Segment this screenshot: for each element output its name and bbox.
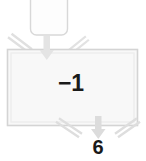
diagram-canvas: −1 6	[0, 0, 146, 161]
main-node-value-label: −1	[0, 72, 144, 95]
top-node-shape[interactable]	[31, 0, 68, 35]
output-count-label: 6	[25, 137, 146, 157]
